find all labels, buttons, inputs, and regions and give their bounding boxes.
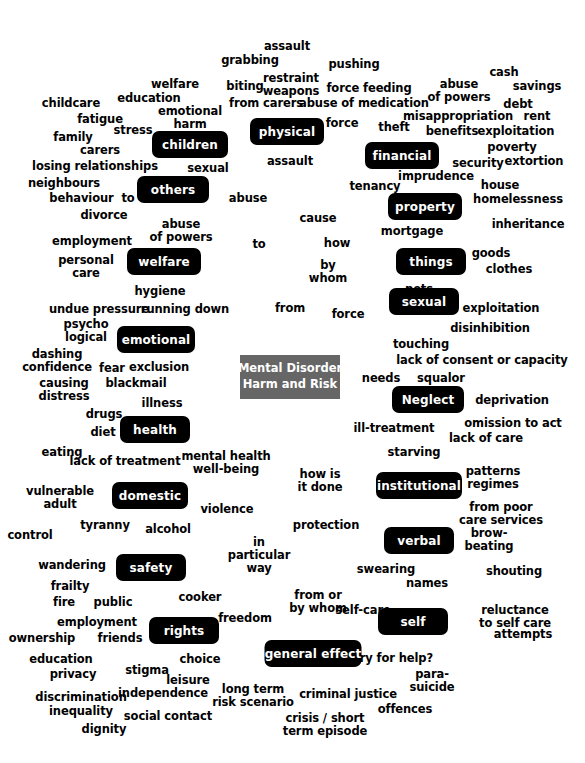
term-fire: fire: [53, 596, 75, 609]
term-force: force: [326, 117, 359, 130]
term-touching: touching: [393, 338, 449, 351]
category-node-physical[interactable]: physical: [250, 118, 324, 145]
term-discrimination: discrimination: [35, 691, 126, 704]
term-vulnerable-adult: vulnerable adult: [26, 485, 94, 511]
term-extortion: extortion: [505, 155, 564, 168]
term-ill-treatment: ill-treatment: [354, 422, 435, 435]
term-misappropriation: misappropriation: [403, 110, 513, 123]
term-benefits: benefits: [426, 125, 479, 138]
category-node-self[interactable]: self: [378, 608, 448, 635]
term-assault: assault: [267, 155, 313, 168]
term-behaviour-to: behaviour to: [49, 192, 134, 205]
category-node-institutional[interactable]: institutional: [376, 472, 462, 499]
term-mortgage: mortgage: [381, 225, 443, 238]
term-clothes: clothes: [486, 263, 532, 276]
term-mental-health-well-being: mental health well-being: [181, 450, 270, 476]
term-leisure: leisure: [166, 674, 210, 687]
category-node-sexual[interactable]: sexual: [389, 288, 459, 315]
term-disinhibition: disinhibition: [450, 322, 530, 335]
term-fear: fear: [99, 362, 125, 375]
term-losing-relationships: losing relationships: [32, 160, 158, 173]
term-reluctance-to-self-care: reluctance to self care: [479, 604, 551, 630]
term-force: force: [332, 308, 365, 321]
term-drugs: drugs: [86, 408, 123, 421]
category-node-safety[interactable]: safety: [116, 554, 186, 581]
category-node-others[interactable]: others: [137, 176, 209, 203]
term-grabbing: grabbing: [221, 54, 279, 67]
term-theft: theft: [378, 121, 410, 134]
term-exploitation: exploitation: [478, 125, 555, 138]
term-family: family: [53, 131, 93, 144]
term-cash: cash: [489, 66, 518, 79]
term-patterns-regimes: patterns regimes: [466, 465, 521, 491]
category-node-general-effect[interactable]: general effect: [265, 640, 362, 667]
term-from-carers: from carers: [229, 97, 303, 110]
term-crisis-short-term-episode: crisis / short term episode: [283, 712, 368, 738]
term-swearing: swearing: [357, 563, 415, 576]
term-from: from: [275, 302, 305, 315]
category-node-health[interactable]: health: [120, 416, 190, 443]
term-tenancy: tenancy: [349, 180, 400, 193]
term-attempts: attempts: [494, 628, 552, 641]
term-undue-pressure: undue pressure: [49, 303, 149, 316]
category-node-children[interactable]: children: [152, 131, 228, 158]
term-blackmail: blackmail: [105, 377, 166, 390]
term-psycho-logical: psycho logical: [64, 318, 109, 344]
term-restraint-weapons: restraint weapons: [263, 72, 320, 98]
term-cooker: cooker: [179, 591, 222, 604]
term-exclusion: exclusion: [129, 361, 189, 374]
term-friends: friends: [98, 632, 143, 645]
term-exploitation: exploitation: [463, 302, 540, 315]
term-abuse-of-medication: abuse of medication: [299, 97, 429, 110]
term-long-term-risk-scenario: long term risk scenario: [212, 683, 294, 709]
term-starving: starving: [388, 446, 441, 459]
term-childcare: childcare: [42, 97, 100, 110]
term-ownership: ownership: [9, 632, 76, 645]
term-names: names: [406, 577, 448, 590]
term-education: education: [117, 92, 180, 105]
term-deprivation: deprivation: [475, 394, 549, 407]
term-running-down: running down: [141, 303, 229, 316]
category-node-rights[interactable]: rights: [149, 617, 219, 644]
term-cause: cause: [300, 212, 337, 225]
term-frailty: frailty: [51, 580, 90, 593]
term-freedom: freedom: [218, 612, 272, 625]
term-public: public: [94, 596, 133, 609]
term-hygiene: hygiene: [135, 285, 186, 298]
term-control: control: [7, 529, 52, 542]
term-how: how: [324, 237, 350, 250]
category-node-things[interactable]: things: [396, 248, 466, 275]
term-in-particular-way: in particular way: [228, 536, 290, 575]
term-poverty: poverty: [487, 141, 536, 154]
term-diet: diet: [90, 426, 115, 439]
category-node-financial[interactable]: financial: [365, 142, 439, 169]
term-dashing-confidence: dashing confidence: [22, 348, 92, 374]
term-force-feeding: force feeding: [326, 82, 411, 95]
term-personal-care: personal care: [58, 254, 114, 280]
term-choice: choice: [180, 653, 221, 666]
term-divorce: divorce: [80, 209, 127, 222]
term-inequality: inequality: [49, 705, 113, 718]
term-criminal-justice: criminal justice: [299, 688, 397, 701]
term-stigma: stigma: [125, 664, 169, 677]
term-abuse-of-powers: abuse of powers: [149, 218, 212, 244]
term-abuse-of-powers: abuse of powers: [427, 78, 490, 104]
term-rent: rent: [524, 110, 551, 123]
term-social-contact: social contact: [124, 710, 212, 723]
term-protection: protection: [293, 519, 359, 532]
term-pushing: pushing: [328, 58, 379, 71]
term-violence: violence: [200, 503, 253, 516]
category-node-domestic[interactable]: domestic: [112, 482, 188, 509]
term-employment: employment: [52, 235, 132, 248]
term-lack-of-care: lack of care: [449, 432, 523, 445]
category-node-emotional[interactable]: emotional: [117, 326, 195, 353]
category-node-property[interactable]: property: [388, 193, 462, 220]
center-node-mental-disorder-harm-and-risk[interactable]: Mental Disorder Harm and Risk: [240, 355, 340, 399]
term-causing-distress: causing distress: [39, 377, 90, 403]
term-how-is-it-done: how is it done: [298, 468, 343, 494]
term-illness: illness: [142, 397, 183, 410]
category-node-verbal[interactable]: verbal: [384, 527, 454, 554]
category-node-neglect[interactable]: Neglect: [392, 386, 464, 413]
category-node-welfare[interactable]: welfare: [127, 248, 201, 275]
term-homelessness: homelessness: [473, 193, 563, 206]
